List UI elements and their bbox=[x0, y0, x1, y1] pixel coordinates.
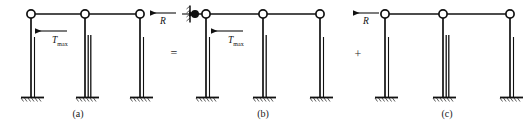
frame-c-reaction-label: R bbox=[362, 16, 369, 26]
operator-equals: = bbox=[171, 46, 178, 60]
frame-b-support-2 bbox=[253, 98, 276, 102]
frame-b-joint-3 bbox=[316, 10, 324, 18]
frame-b: Tmax (b) bbox=[182, 6, 333, 121]
frame-a-column-3 bbox=[140, 14, 144, 97]
operator-plus: + bbox=[355, 47, 362, 61]
frame-c-support-2 bbox=[433, 98, 456, 102]
frame-b-load-label: Tmax bbox=[228, 35, 244, 47]
frame-c-joint-2 bbox=[439, 10, 447, 18]
frame-a-column-1 bbox=[31, 14, 35, 97]
frame-c-column-3 bbox=[510, 14, 514, 97]
frame-b-support-3 bbox=[310, 98, 333, 102]
frame-a-caption: (a) bbox=[72, 108, 83, 120]
frame-c: R bbox=[353, 10, 523, 120]
frame-c-joint-3 bbox=[506, 10, 514, 18]
frame-c-support-1 bbox=[375, 98, 398, 102]
frame-a-joint-2 bbox=[81, 10, 89, 18]
frame-b-column-1 bbox=[206, 14, 210, 97]
frame-a-support-3 bbox=[130, 98, 153, 102]
frame-a-support-1 bbox=[21, 98, 44, 102]
frame-a-column-2 bbox=[85, 14, 91, 97]
frame-a-load-label: Tmax bbox=[52, 35, 68, 47]
frame-c-column-2 bbox=[443, 14, 449, 97]
frame-b-joint-2 bbox=[259, 10, 267, 18]
frame-b-caption: (b) bbox=[257, 108, 269, 120]
frame-a: Tmax R (a) bbox=[21, 10, 176, 120]
frame-a-joint-1 bbox=[27, 10, 35, 18]
frame-c-support-3 bbox=[500, 98, 523, 102]
frame-c-column-1 bbox=[385, 14, 389, 97]
frame-a-joint-3 bbox=[136, 10, 144, 18]
frame-b-support-1 bbox=[196, 98, 219, 102]
superposition-diagram: Tmax R (a) = bbox=[0, 0, 531, 126]
frame-b-column-2 bbox=[263, 14, 266, 97]
frame-c-caption: (c) bbox=[441, 108, 452, 120]
frame-c-joint-1 bbox=[381, 10, 389, 18]
figure-canvas: Tmax R (a) = bbox=[0, 0, 531, 126]
frame-b-joint-1 bbox=[202, 10, 210, 18]
frame-b-column-3 bbox=[320, 14, 324, 97]
frame-a-support-2 bbox=[76, 98, 99, 102]
frame-a-reaction-label: R bbox=[159, 16, 166, 26]
